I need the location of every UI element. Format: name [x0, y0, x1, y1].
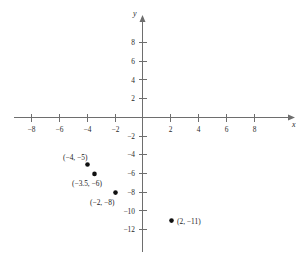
y-tick-label: −8 — [127, 188, 135, 197]
data-point-label: (2, −11) — [177, 217, 201, 226]
x-tick-label: 4 — [197, 125, 201, 134]
x-tick-label: −8 — [28, 125, 36, 134]
data-point-label: (−2, −8) — [90, 198, 115, 207]
y-tick-label: −10 — [123, 207, 135, 216]
coordinate-plane-chart: −8 −6 −4 −2 2 4 6 8 8 6 4 2 — [0, 0, 303, 258]
x-tick-label: −2 — [112, 125, 120, 134]
data-point[interactable] — [169, 218, 174, 223]
x-tick-label: 8 — [253, 125, 257, 134]
y-axis-label: y — [132, 9, 137, 18]
y-tick-label: −2 — [127, 132, 135, 141]
y-tick-label: −6 — [127, 169, 135, 178]
data-point[interactable] — [92, 172, 97, 177]
data-point-label: (−4, −5) — [63, 153, 88, 162]
data-point-label: (−3.5, −6) — [72, 179, 102, 188]
x-tick-label: 2 — [169, 125, 173, 134]
x-tick-label: −6 — [56, 125, 64, 134]
y-axis-arrow-icon — [140, 15, 146, 22]
y-axis-tick-labels: 8 6 4 2 −2 −4 −6 −8 −10 −12 — [123, 38, 135, 234]
y-tick-label: 8 — [131, 38, 135, 47]
x-tick-label: 6 — [225, 125, 229, 134]
y-tick-label: 2 — [131, 94, 135, 103]
y-tick-label: 6 — [131, 57, 135, 66]
plot-canvas: −8 −6 −4 −2 2 4 6 8 8 6 4 2 — [0, 0, 303, 258]
x-tick-label: −4 — [84, 125, 92, 134]
data-point[interactable] — [85, 162, 90, 167]
data-point[interactable] — [113, 190, 118, 195]
x-axis-label: x — [291, 120, 296, 129]
y-tick-label: −4 — [127, 150, 135, 159]
y-tick-label: 4 — [131, 76, 135, 85]
y-tick-label: −12 — [123, 225, 135, 234]
